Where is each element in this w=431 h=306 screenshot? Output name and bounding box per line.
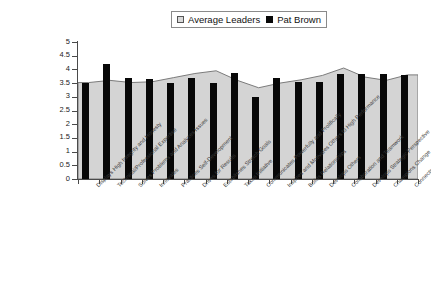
- table-row: [273, 78, 280, 179]
- x-tick-mark: [163, 180, 164, 184]
- plot-wrapper: 54.543.532.521.510.50: [0, 0, 431, 306]
- y-tick-mark: [72, 124, 77, 125]
- x-tick-mark: [376, 180, 377, 184]
- y-tick-mark: [72, 56, 77, 57]
- table-row: [188, 78, 195, 179]
- x-tick-mark: [397, 180, 398, 184]
- x-tick-mark: [227, 180, 228, 184]
- y-tick-mark: [72, 138, 77, 139]
- y-tick-mark: [72, 179, 77, 180]
- table-row: [337, 74, 344, 179]
- table-row: [380, 74, 387, 179]
- x-tick-mark: [312, 180, 313, 184]
- y-tick-label: 5: [46, 38, 70, 47]
- table-row: [82, 83, 89, 179]
- y-tick-label: 0.5: [46, 161, 70, 170]
- y-tick-mark: [72, 97, 77, 98]
- x-tick-mark: [291, 180, 292, 184]
- table-row: [146, 79, 153, 179]
- y-tick-label: 0: [46, 175, 70, 184]
- y-tick-mark: [72, 111, 77, 112]
- table-row: [316, 82, 323, 179]
- y-tick-mark: [72, 165, 77, 166]
- x-tick-mark: [121, 180, 122, 184]
- x-tick-mark: [354, 180, 355, 184]
- table-row: [252, 97, 259, 179]
- x-tick-mark: [99, 180, 100, 184]
- table-row: [358, 74, 365, 179]
- table-row: [103, 64, 110, 179]
- y-tick-mark: [72, 69, 77, 70]
- table-row: [167, 83, 174, 179]
- x-tick-mark: [206, 180, 207, 184]
- y-tick-label: 4.5: [46, 51, 70, 60]
- y-tick-label: 2.5: [46, 106, 70, 115]
- y-tick-label: 3: [46, 92, 70, 101]
- table-row: [231, 73, 238, 179]
- y-tick-mark: [72, 152, 77, 153]
- table-row: [401, 75, 408, 179]
- x-tick-mark: [78, 180, 79, 184]
- x-tick-mark: [142, 180, 143, 184]
- y-tick-label: 4: [46, 65, 70, 74]
- x-tick-mark: [333, 180, 334, 184]
- x-tick-mark: [248, 180, 249, 184]
- y-tick-mark: [72, 83, 77, 84]
- x-tick-mark: [269, 180, 270, 184]
- y-tick-label: 1: [46, 147, 70, 156]
- y-tick-mark: [72, 42, 77, 43]
- x-tick-mark: [184, 180, 185, 184]
- x-tick-mark: [418, 180, 419, 184]
- y-tick-label: 1.5: [46, 133, 70, 142]
- chart-root: Average Leaders Pat Brown 54.543.532.521…: [0, 0, 431, 306]
- table-row: [125, 78, 132, 179]
- y-tick-label: 2: [46, 120, 70, 129]
- table-row: [295, 82, 302, 179]
- y-tick-label: 3.5: [46, 79, 70, 88]
- table-row: [210, 83, 217, 179]
